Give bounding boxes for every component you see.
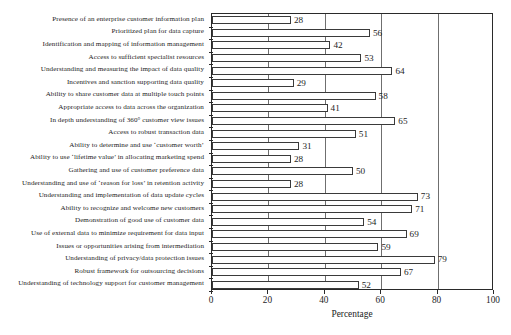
category-label: In depth understanding of 360° customer … — [50, 116, 204, 124]
bar-value-label: 50 — [356, 165, 365, 177]
bar-row: 59 — [212, 241, 494, 254]
category-label: Ability to share customer data at multip… — [46, 90, 204, 98]
bar-value-label: 41 — [331, 102, 340, 114]
bar — [212, 193, 418, 201]
category-label: Incentives and sanction supporting data … — [67, 78, 204, 86]
category-label: Ability to use ‘lifetime value’ in alloc… — [30, 153, 204, 161]
x-axis-tick-label: 20 — [247, 295, 287, 306]
bar — [212, 54, 361, 62]
bar-value-label: 79 — [438, 253, 447, 265]
bar — [212, 130, 356, 138]
category-label: Understanding of privacy/data protection… — [65, 254, 204, 262]
bar-value-label: 28 — [294, 153, 303, 165]
x-axis-tick-label: 60 — [360, 295, 400, 306]
bar-value-label: 42 — [333, 39, 342, 51]
bar-value-label: 64 — [395, 65, 404, 77]
bar-value-label: 54 — [367, 216, 376, 228]
category-label: Understanding of technology support for … — [18, 279, 204, 287]
category-axis-labels: Presence of an enterprise customer infor… — [0, 13, 208, 290]
bar-value-label: 69 — [410, 228, 419, 240]
bar — [212, 256, 435, 264]
category-label: Ability to determine and use ‘customer w… — [69, 141, 204, 149]
bar — [212, 230, 407, 238]
bar — [212, 41, 330, 49]
x-axis-tick-label: 0 — [191, 295, 231, 306]
bar — [212, 167, 353, 175]
bar-value-label: 67 — [404, 266, 413, 278]
bar-row: 31 — [212, 140, 494, 153]
x-axis-tick — [211, 290, 212, 294]
bar-row: 28 — [212, 14, 494, 27]
bar-row: 67 — [212, 266, 494, 279]
category-label: Gathering and use of customer preference… — [68, 166, 204, 174]
category-label: Issues or opportunities arising from int… — [56, 242, 204, 250]
bar — [212, 243, 378, 251]
horizontal-bar-chart: Presence of an enterprise customer infor… — [0, 0, 511, 335]
bar-value-label: 31 — [302, 140, 311, 152]
category-label: Prioritized plan for data capture — [111, 27, 204, 35]
category-label: Presence of an enterprise customer infor… — [52, 15, 204, 23]
bar — [212, 155, 291, 163]
x-axis-tick-label: 40 — [304, 295, 344, 306]
bar — [212, 218, 364, 226]
bar-value-label: 71 — [415, 203, 424, 215]
x-axis-tick — [493, 290, 494, 294]
category-label: Understanding and implementation of data… — [39, 191, 204, 199]
category-label: Appropriate access to data across the or… — [58, 103, 204, 111]
bar — [212, 142, 299, 150]
bar — [212, 79, 294, 87]
bar — [212, 180, 291, 188]
bar-row: 58 — [212, 90, 494, 103]
x-axis-tick — [324, 290, 325, 294]
bar-row: 79 — [212, 253, 494, 266]
x-axis-tick — [437, 290, 438, 294]
category-label: Understanding and use of ‘reason for los… — [22, 179, 204, 187]
x-axis-tick-label: 80 — [417, 295, 457, 306]
plot-area: 2856425364295841655131285028737154695979… — [211, 13, 493, 290]
bar-row: 64 — [212, 64, 494, 77]
bar-row: 54 — [212, 215, 494, 228]
x-axis-tick — [380, 290, 381, 294]
bar-row: 28 — [212, 178, 494, 191]
bar-value-label: 29 — [297, 77, 306, 89]
bar-value-label: 52 — [362, 279, 371, 291]
bar-value-label: 28 — [294, 178, 303, 190]
bar-row: 29 — [212, 77, 494, 90]
bar-row: 73 — [212, 190, 494, 203]
category-label: Demonstration of good use of customer da… — [75, 216, 204, 224]
bar-value-label: 58 — [379, 90, 388, 102]
bar — [212, 29, 370, 37]
bar-row: 50 — [212, 165, 494, 178]
bar-row: 56 — [212, 27, 494, 40]
bar — [212, 67, 392, 75]
category-label: Access to sufficient specialist resource… — [89, 53, 204, 61]
bar-value-label: 53 — [364, 52, 373, 64]
x-axis-tick-label: 100 — [473, 295, 511, 306]
x-axis-title: Percentage — [211, 309, 493, 319]
bar-row: 28 — [212, 153, 494, 166]
bar-value-label: 56 — [373, 27, 382, 39]
bar-row: 65 — [212, 115, 494, 128]
bar — [212, 104, 328, 112]
category-label: Understanding and measuring the impact o… — [41, 65, 204, 73]
bar — [212, 281, 359, 289]
category-label: Robust framework for outsourcing decisio… — [75, 267, 204, 275]
bar-row: 71 — [212, 203, 494, 216]
bar-row: 53 — [212, 52, 494, 65]
bar-row: 41 — [212, 102, 494, 115]
bar-value-label: 51 — [359, 128, 368, 140]
bar-value-label: 28 — [294, 14, 303, 26]
bar-row: 69 — [212, 228, 494, 241]
bar-value-label: 65 — [398, 115, 407, 127]
bar-row: 52 — [212, 278, 494, 291]
bar-value-label: 73 — [421, 190, 430, 202]
category-label: Use of external data to minimize require… — [31, 229, 204, 237]
bar — [212, 205, 412, 213]
bar — [212, 268, 401, 276]
category-label: Ability to recognize and welcome new cus… — [60, 204, 204, 212]
category-label: Access to robust transaction data — [108, 128, 204, 136]
x-axis-tick — [267, 290, 268, 294]
bar — [212, 92, 376, 100]
bar-row: 51 — [212, 127, 494, 140]
bar-value-label: 59 — [381, 241, 390, 253]
